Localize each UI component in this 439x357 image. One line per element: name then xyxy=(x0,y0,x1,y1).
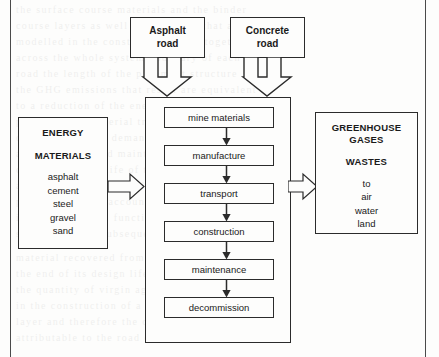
flow-arrow-down-icon xyxy=(218,166,235,184)
lifecycle-stage-manufacture: manufacture xyxy=(164,145,274,166)
diagram-page: the surface course materials and the bin… xyxy=(0,0,439,357)
lifecycle-container: mine materials manufacture transport con… xyxy=(145,97,291,343)
outputs-heading-wastes: WASTES xyxy=(346,156,387,168)
block-arrow-asphalt-down-icon xyxy=(140,57,195,98)
block-arrow-lifecycle-to-outputs-icon xyxy=(288,172,318,201)
inputs-item-list: asphalt cement steel gravel sand xyxy=(47,170,78,237)
inputs-item: asphalt xyxy=(47,170,78,183)
lifecycle-stage-construction: construction xyxy=(164,221,274,242)
node-asphalt-road-line2: road xyxy=(157,38,179,50)
outputs-item-list: to air water land xyxy=(355,177,378,231)
inputs-item: steel xyxy=(47,197,78,210)
flow-arrow-down-icon xyxy=(218,242,235,260)
page-frame-left-rule xyxy=(10,0,11,357)
lifecycle-stage-mine-materials: mine materials xyxy=(164,107,274,128)
scan-bleed-text: the GHG emissions that result are equiva… xyxy=(16,84,257,95)
lifecycle-stage-transport: transport xyxy=(164,183,274,204)
inputs-heading-materials: MATERIALS xyxy=(35,150,92,162)
outputs-item: land xyxy=(355,217,378,230)
node-asphalt-road-line1: Asphalt xyxy=(149,25,186,37)
block-arrow-inputs-to-lifecycle-icon xyxy=(108,172,146,201)
outputs-item: air xyxy=(355,190,378,203)
outputs-heading-gases: GASES xyxy=(349,134,383,146)
flow-arrow-down-icon xyxy=(218,128,235,146)
scan-bleed-text: across the whole system boundary of each xyxy=(16,52,241,63)
block-arrow-concrete-down-icon xyxy=(240,57,295,98)
node-concrete-road: Concrete road xyxy=(230,17,305,58)
outputs-item: to xyxy=(355,177,378,190)
inputs-item: sand xyxy=(47,224,78,237)
flow-arrow-down-icon xyxy=(218,204,235,222)
scan-bleed-text: the surface course materials and the bin… xyxy=(16,4,247,15)
node-inputs: ENERGY MATERIALS asphalt cement steel gr… xyxy=(18,117,108,249)
inputs-item: gravel xyxy=(47,211,78,224)
inputs-item: cement xyxy=(47,184,78,197)
outputs-heading-greenhouse: GREENHOUSE xyxy=(332,122,402,134)
scan-bleed-text: road the length of the pavement structur… xyxy=(16,68,238,79)
node-outputs: GREENHOUSE GASES WASTES to air water lan… xyxy=(315,112,418,234)
page-frame-right-rule xyxy=(425,0,426,357)
flow-arrow-down-icon xyxy=(218,280,235,298)
outputs-item: water xyxy=(355,204,378,217)
lifecycle-stage-maintenance: maintenance xyxy=(164,259,274,280)
node-concrete-road-line2: road xyxy=(257,38,279,50)
inputs-heading-energy: ENERGY xyxy=(42,127,83,139)
node-concrete-road-line1: Concrete xyxy=(246,25,289,37)
node-asphalt-road: Asphalt road xyxy=(130,17,205,58)
lifecycle-stage-decommission: decommission xyxy=(164,297,274,318)
